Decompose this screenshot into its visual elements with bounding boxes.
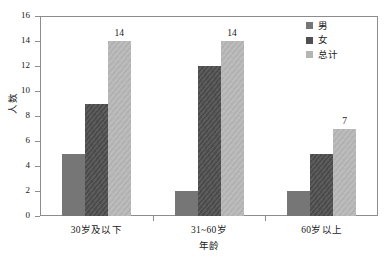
y-axis-tick-label: 2 [6, 185, 30, 195]
y-axis-tick [35, 166, 40, 167]
bar [85, 104, 108, 217]
x-axis-category-label: 60岁以上 [265, 222, 378, 236]
bar [108, 41, 131, 216]
y-axis-tick-label: 10 [6, 85, 30, 95]
y-axis-tick [35, 141, 40, 142]
legend-swatch-icon [306, 22, 313, 29]
legend-swatch-icon [306, 37, 313, 44]
chart-legend: 男女总计 [306, 20, 339, 60]
y-axis-tick [35, 191, 40, 192]
bar [287, 191, 310, 216]
bar [310, 154, 333, 217]
x-axis-category-label: 30岁及以下 [40, 222, 153, 236]
bar-chart: 人数 0246810121416 14147 30岁及以下31~60岁60岁以上… [0, 0, 388, 258]
bar [175, 191, 198, 216]
legend-swatch-icon [306, 51, 313, 58]
y-axis-tick-label: 16 [6, 10, 30, 20]
y-axis-tick-label: 8 [6, 110, 30, 120]
bar [62, 154, 85, 217]
x-axis-tick [153, 216, 154, 221]
y-axis-tick-label: 14 [6, 35, 30, 45]
y-axis-tick [35, 66, 40, 67]
y-axis-tick [35, 116, 40, 117]
y-axis-tick [35, 41, 40, 42]
y-axis-tick-label: 6 [6, 135, 30, 145]
y-axis-tick [35, 16, 40, 17]
y-axis-tick [35, 91, 40, 92]
legend-item: 男 [306, 20, 339, 31]
y-axis-tick-label: 0 [6, 210, 30, 220]
y-axis-tick-label: 12 [6, 60, 30, 70]
x-axis-category-label: 31~60岁 [153, 222, 266, 236]
legend-label: 男 [318, 21, 328, 31]
y-axis-tick-label: 4 [6, 160, 30, 170]
x-axis-title: 年龄 [40, 238, 378, 252]
y-axis-tick [35, 216, 40, 217]
bar-value-label: 14 [102, 28, 137, 38]
bar [333, 129, 356, 217]
legend-item: 女 [306, 35, 339, 46]
bar [221, 41, 244, 216]
bar-value-label: 7 [327, 116, 362, 126]
x-axis-tick [265, 216, 266, 221]
legend-label: 女 [318, 35, 328, 45]
legend-item: 总计 [306, 49, 339, 60]
bar-value-label: 14 [215, 28, 250, 38]
legend-label: 总计 [318, 50, 339, 60]
bar [198, 66, 221, 216]
